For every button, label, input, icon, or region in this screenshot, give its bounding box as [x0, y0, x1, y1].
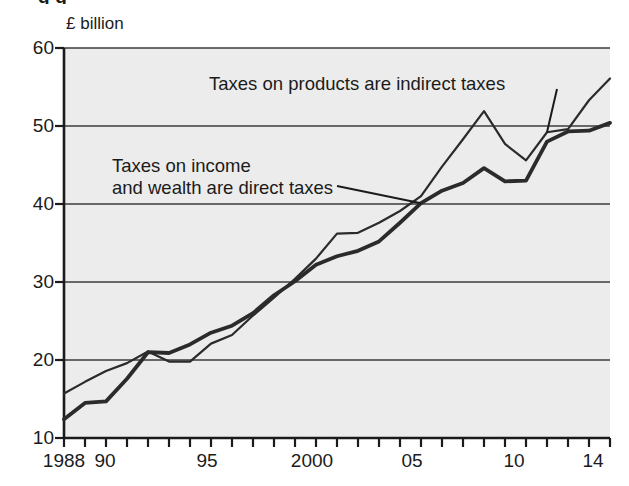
x-tick-label-1995: 95: [186, 450, 228, 472]
annotation-indirect-line-1: Taxes on products are indirect taxes: [209, 73, 505, 94]
x-tick-label-1990: 90: [84, 450, 126, 472]
y-tick-label-20: 20: [8, 349, 54, 371]
y-axis-unit-label: £ billion: [66, 14, 124, 34]
annotation-direct-line-1: Taxes on income: [112, 155, 333, 177]
chart-figure: g g £ billion 60 50 40 30 20 10 1988 90 …: [0, 0, 629, 486]
plot-background: [64, 48, 610, 438]
y-tick-label-30: 30: [8, 271, 54, 293]
y-tick-label-50: 50: [8, 115, 54, 137]
y-tick-label-60: 60: [8, 37, 54, 59]
annotation-direct-taxes: Taxes on income and wealth are direct ta…: [112, 155, 333, 199]
x-tick-label-2005: 05: [391, 450, 433, 472]
annotation-direct-line-2: and wealth are direct taxes: [112, 177, 333, 199]
x-tick-label-2000: 2000: [276, 450, 348, 472]
y-axis-ticks-group: [55, 48, 64, 438]
x-tick-label-2010: 10: [493, 450, 535, 472]
cut-off-chart-title: g g: [38, 0, 67, 4]
x-tick-label-2014: 14: [572, 450, 614, 472]
y-tick-label-40: 40: [8, 193, 54, 215]
x-axis-ticks-group: [64, 438, 610, 447]
y-tick-label-10: 10: [8, 427, 54, 449]
annotation-indirect-taxes: Taxes on products are indirect taxes: [209, 73, 505, 95]
